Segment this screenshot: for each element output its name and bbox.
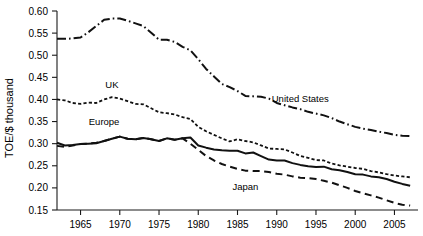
energy-intensity-chart: 0.150.200.250.300.350.400.450.500.550.60…: [0, 0, 423, 236]
chart-canvas: 0.150.200.250.300.350.400.450.500.550.60…: [0, 0, 423, 236]
y-axis-title: TOE/$ thousand: [3, 78, 15, 158]
x-tick-label: 1990: [266, 219, 289, 230]
series-line-europe: [57, 137, 410, 186]
y-tick-label: 0.45: [29, 72, 49, 83]
x-axis: 196519701975198019851990199520002005: [57, 210, 418, 230]
series-line-japan: [57, 137, 410, 206]
series-lines: [57, 19, 410, 206]
series-line-uk: [57, 97, 410, 177]
y-tick-label: 0.25: [29, 160, 49, 171]
x-tick-label: 1965: [69, 219, 92, 230]
x-tick-label: 1975: [148, 219, 171, 230]
y-tick-label: 0.55: [29, 28, 49, 39]
y-tick-label: 0.30: [29, 138, 49, 149]
y-tick-label: 0.50: [29, 50, 49, 61]
y-tick-label: 0.15: [29, 205, 49, 216]
x-tick-label: 1980: [187, 219, 210, 230]
series-annotations: United StatesUKEuropeJapan: [89, 79, 329, 192]
x-tick-label: 2000: [344, 219, 367, 230]
x-tick-label: 1985: [226, 219, 249, 230]
series-label-japan: Japan: [232, 181, 258, 192]
x-tick-label: 2005: [383, 219, 406, 230]
y-tick-label: 0.60: [29, 6, 49, 17]
y-axis: 0.150.200.250.300.350.400.450.500.550.60: [29, 6, 57, 216]
y-tick-label: 0.20: [29, 182, 49, 193]
y-tick-label: 0.35: [29, 116, 49, 127]
series-label-united-states: United States: [272, 93, 329, 104]
x-tick-label: 1970: [109, 219, 132, 230]
series-label-europe: Europe: [89, 116, 120, 127]
x-tick-label: 1995: [305, 219, 328, 230]
y-tick-label: 0.40: [29, 94, 49, 105]
series-label-uk: UK: [105, 79, 119, 90]
